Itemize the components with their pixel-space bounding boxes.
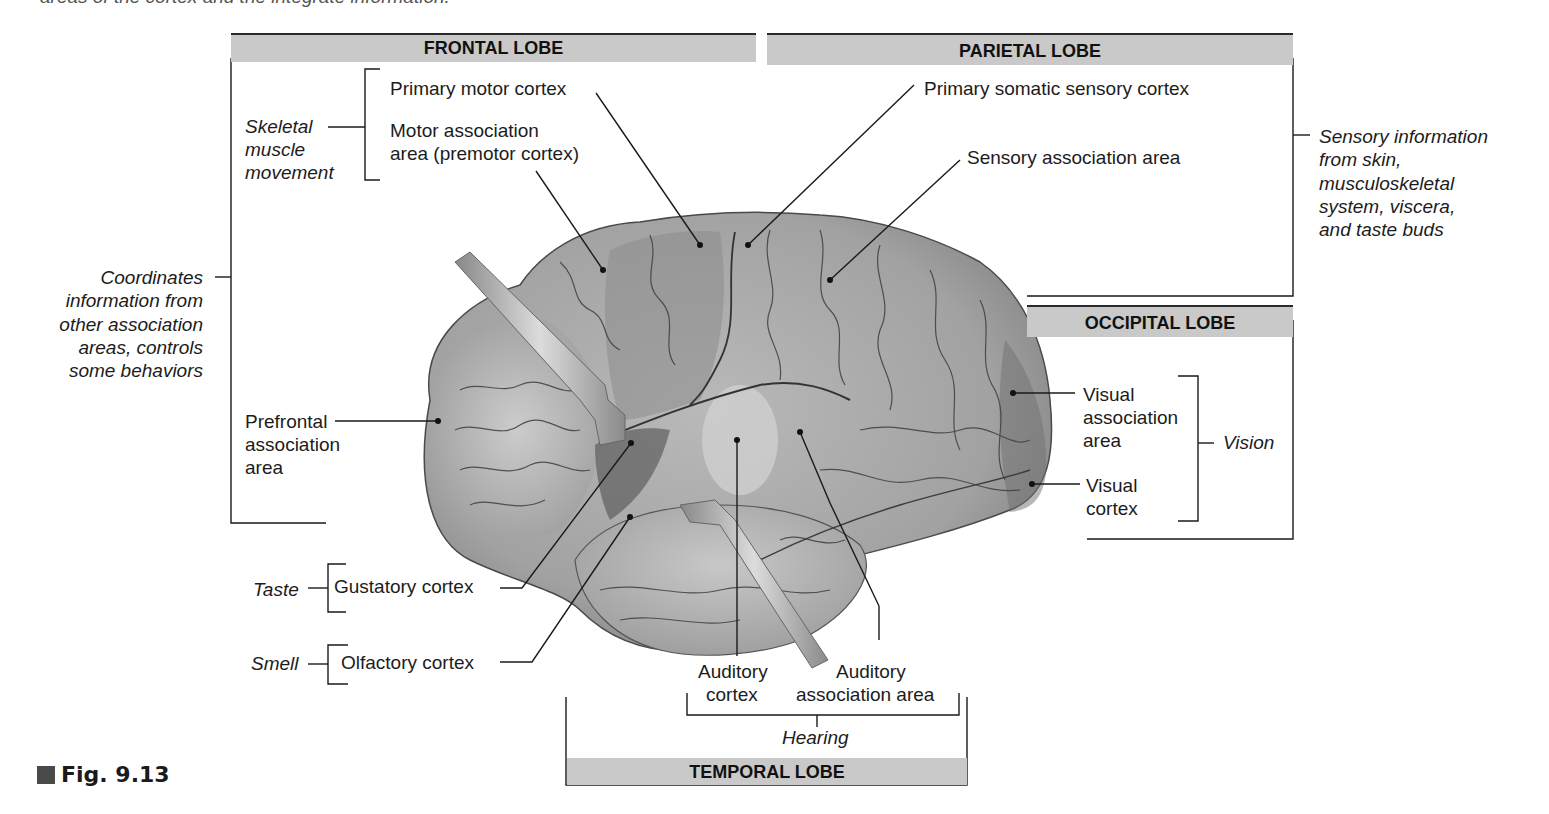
label-prefrontal-line2: association (245, 433, 340, 456)
function-vision: Vision (1223, 431, 1274, 454)
label-auditory-association-line1: Auditory (836, 660, 906, 683)
function-skeletal-line3: movement (245, 161, 334, 184)
label-prefrontal-line3: area (245, 456, 283, 479)
figure-label-text: Fig. 9.13 (61, 762, 170, 787)
function-sensory-info-line4: system, viscera, (1319, 195, 1455, 218)
function-sensory-info-line3: musculoskeletal (1319, 172, 1454, 195)
occipital-lobe-header: OCCIPITAL LOBE (1027, 305, 1293, 337)
function-smell: Smell (251, 652, 299, 675)
function-coordinates-line4: areas, controls (78, 336, 203, 359)
label-gustatory-cortex: Gustatory cortex (334, 575, 473, 598)
function-sensory-info-line5: and taste buds (1319, 218, 1444, 241)
figure-square-icon (37, 766, 55, 784)
label-prefrontal-line1: Prefrontal (245, 410, 327, 433)
function-hearing: Hearing (782, 726, 849, 749)
parietal-lobe-header: PARIETAL LOBE (767, 33, 1293, 65)
function-coordinates-line2: information from (66, 289, 203, 312)
label-visual-cortex-line1: Visual (1086, 474, 1137, 497)
function-taste: Taste (253, 578, 299, 601)
label-motor-association-line1: Motor association (390, 119, 539, 142)
label-visual-association-line1: Visual (1083, 383, 1134, 406)
label-auditory-cortex-line2: cortex (706, 683, 758, 706)
label-auditory-cortex-line1: Auditory (698, 660, 768, 683)
label-primary-motor-cortex: Primary motor cortex (390, 77, 566, 100)
function-sensory-info-line1: Sensory information (1319, 125, 1488, 148)
function-sensory-info-line2: from skin, (1319, 148, 1401, 171)
leader-lines (0, 0, 1549, 814)
function-coordinates-line1: Coordinates (101, 266, 203, 289)
temporal-lobe-header: TEMPORAL LOBE (567, 758, 967, 785)
function-coordinates-line3: other association (59, 313, 203, 336)
label-visual-association-line3: area (1083, 429, 1121, 452)
function-skeletal-line1: Skeletal (245, 115, 313, 138)
function-skeletal-line2: muscle (245, 138, 305, 161)
function-coordinates-line5: some behaviors (69, 359, 203, 382)
label-motor-association-line2: area (premotor cortex) (390, 142, 579, 165)
label-visual-cortex-line2: cortex (1086, 497, 1138, 520)
label-olfactory-cortex: Olfactory cortex (341, 651, 474, 674)
label-visual-association-line2: association (1083, 406, 1178, 429)
figure-label: Fig. 9.13 (37, 762, 170, 787)
frontal-lobe-header: FRONTAL LOBE (231, 33, 756, 62)
label-primary-somatic-sensory-cortex: Primary somatic sensory cortex (924, 77, 1189, 100)
label-sensory-association-area: Sensory association area (967, 146, 1180, 169)
label-auditory-association-line2: association area (796, 683, 934, 706)
